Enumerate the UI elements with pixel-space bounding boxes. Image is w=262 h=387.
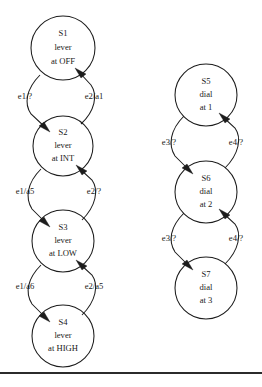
transition-label-e1-q-s1s2: e1/?	[18, 91, 32, 101]
state-diagram: S1 lever at OFF S2 lever at INT S3 lever…	[0, 0, 262, 387]
state-node-s1[interactable]: S1 lever at OFF	[31, 16, 95, 80]
diagram-canvas: S1 lever at OFF S2 lever at INT S3 lever…	[0, 0, 262, 387]
state-name-s2: S2	[58, 127, 67, 137]
transition-s3-s4[interactable]: e1/a6	[16, 265, 50, 322]
footer-divider	[0, 372, 262, 374]
state-node-s5[interactable]: S5 dial at 1	[175, 64, 237, 126]
state-line2-s4: at HIGH	[48, 343, 78, 353]
state-name-s7: S7	[201, 269, 211, 279]
transition-s5-s6[interactable]: e3/?	[162, 116, 193, 174]
state-name-s4: S4	[58, 317, 68, 327]
state-line1-s6: dial	[200, 186, 213, 196]
transition-path-s2-s3	[28, 169, 46, 223]
transition-label-e1-a6-s3s4: e1/a6	[16, 281, 35, 291]
transition-s6-s7[interactable]: e3/?	[162, 213, 193, 270]
transition-s4-s3[interactable]: e2/a5	[76, 260, 103, 315]
transition-s2-s1[interactable]: e2/a1	[75, 68, 103, 124]
state-line2-s1: at OFF	[51, 56, 75, 66]
transition-label-e2-a1-s2s1: e2/a1	[85, 91, 104, 101]
transition-label-e2-q-s3s2: e2/?	[87, 186, 101, 196]
transition-path-s3-s4	[28, 265, 46, 318]
state-node-s7[interactable]: S7 dial at 3	[175, 257, 237, 319]
state-name-s1: S1	[58, 28, 67, 38]
state-line1-s2: lever	[54, 140, 71, 150]
transition-label-e3-q-s6s7: e3/?	[162, 233, 176, 243]
state-line1-s1: lever	[54, 42, 71, 52]
transition-label-e4-q-s6s5: e4/?	[229, 137, 243, 147]
transition-label-e3-q-s5s6: e3/?	[162, 137, 176, 147]
state-name-s6: S6	[201, 173, 211, 183]
state-line2-s6: at 2	[200, 199, 213, 209]
state-line2-s2: at INT	[52, 153, 75, 163]
state-name-s3: S3	[58, 222, 67, 232]
transition-label-e1-a5-s2s3: e1/a5	[16, 186, 35, 196]
state-line1-s7: dial	[200, 282, 213, 292]
state-line1-s3: lever	[54, 235, 71, 245]
state-line2-s7: at 3	[200, 295, 213, 305]
transition-path-s1-s2	[27, 75, 46, 128]
state-line2-s5: at 1	[200, 102, 213, 112]
transition-label-e4-q-s7s6: e4/?	[229, 233, 243, 243]
state-line2-s3: at LOW	[49, 248, 78, 258]
state-line1-s4: lever	[54, 330, 71, 340]
state-line1-s5: dial	[200, 89, 213, 99]
state-name-s5: S5	[201, 76, 210, 86]
transition-s2-s3[interactable]: e1/a5	[16, 169, 50, 227]
transition-s3-s2[interactable]: e2/?	[76, 165, 101, 220]
transition-label-e2-a5-s4s3: e2/a5	[85, 281, 104, 291]
